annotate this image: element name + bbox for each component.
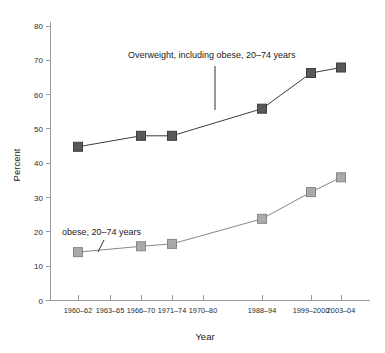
x-tick-label: 1963–65 xyxy=(96,306,124,315)
axes xyxy=(51,22,371,301)
data-point-marker xyxy=(307,69,316,78)
y-tick-label: 60 xyxy=(34,91,43,100)
chart-container: 01020304050607080 1960–621963–651966–701… xyxy=(0,0,385,353)
y-axis-title: Percent xyxy=(11,148,22,181)
percent-by-year-line-chart: 01020304050607080 1960–621963–651966–701… xyxy=(0,0,385,353)
y-tick-label: 50 xyxy=(34,125,43,134)
x-tick-label: 1988–94 xyxy=(248,306,276,315)
x-axis-ticks: 1960–621963–651966–701971–741970–801988–… xyxy=(64,295,355,315)
y-tick-label: 80 xyxy=(34,22,43,31)
x-axis-title: Year xyxy=(195,331,214,342)
y-tick-label: 0 xyxy=(39,297,44,306)
data-point-marker xyxy=(74,248,83,257)
x-tick-label: 1999–2000 xyxy=(293,306,330,315)
annotation-label: Overweight, including obese, 20–74 years xyxy=(128,50,296,60)
data-point-marker xyxy=(337,173,346,182)
data-point-marker xyxy=(337,63,346,72)
y-tick-label: 30 xyxy=(34,194,43,203)
y-axis-ticks: 01020304050607080 xyxy=(34,22,50,306)
data-point-marker xyxy=(258,214,267,223)
data-point-marker xyxy=(74,142,83,151)
data-point-marker xyxy=(168,239,177,248)
x-tick-label: 1966–70 xyxy=(127,306,155,315)
overweight-annotation: Overweight, including obese, 20–74 years xyxy=(128,50,296,110)
data-point-marker xyxy=(307,188,316,197)
x-tick-label: 1971–74 xyxy=(158,306,186,315)
series-line xyxy=(78,177,341,252)
x-tick-label: 1970–80 xyxy=(189,306,217,315)
data-point-marker xyxy=(137,131,146,140)
data-point-marker xyxy=(137,242,146,251)
annotation-label: obese, 20–74 years xyxy=(62,227,142,237)
y-tick-label: 70 xyxy=(34,56,43,65)
y-tick-label: 20 xyxy=(34,228,43,237)
y-tick-label: 10 xyxy=(34,262,43,271)
x-tick-label: 2003–04 xyxy=(327,306,355,315)
series-overweight xyxy=(74,63,346,151)
series-obese xyxy=(74,173,346,257)
data-point-marker xyxy=(168,131,177,140)
series-line xyxy=(78,68,341,147)
y-tick-label: 40 xyxy=(34,159,43,168)
data-point-marker xyxy=(258,104,267,113)
x-tick-label: 1960–62 xyxy=(64,306,92,315)
